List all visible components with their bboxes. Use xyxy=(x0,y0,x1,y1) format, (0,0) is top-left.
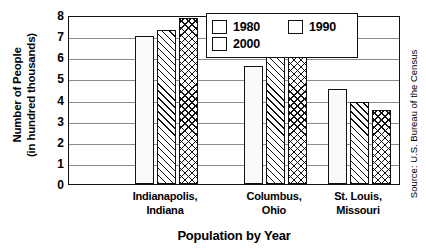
y-axis-tick-labels: 876543210 xyxy=(44,16,64,185)
bar xyxy=(328,89,347,184)
y-axis-tick-7: 7 xyxy=(44,31,64,43)
x-axis-title: Population by Year xyxy=(68,228,400,243)
bar xyxy=(157,30,176,184)
y-axis-tick-6: 6 xyxy=(44,52,64,64)
legend-label-1990: 1990 xyxy=(309,20,336,34)
y-axis-title-line-2: (in hundred thousands) xyxy=(25,33,37,157)
bar xyxy=(350,102,369,184)
legend-label-1980: 1980 xyxy=(233,20,260,34)
bar-group xyxy=(135,17,198,184)
clipped-chart-title xyxy=(0,0,426,5)
legend-swatch-2000-icon xyxy=(212,37,227,51)
bar xyxy=(266,51,285,184)
bar xyxy=(244,66,263,184)
legend-swatch-1990-icon xyxy=(288,20,303,34)
y-axis-tick-2: 2 xyxy=(44,137,64,149)
bar xyxy=(135,36,154,184)
y-axis-title-line-1: Number of People xyxy=(11,47,23,142)
source-note: Source: U.S. Bureau of the Census xyxy=(400,16,426,231)
x-axis-category-labels: Indianapolis,IndianaColumbus,OhioSt. Lou… xyxy=(68,189,400,223)
bar xyxy=(179,18,198,184)
legend-swatch-1980-icon xyxy=(212,20,227,34)
x-axis-category-label: Indianapolis,Indiana xyxy=(105,189,225,217)
legend-row-2: 2000 xyxy=(212,35,352,52)
y-axis-tick-5: 5 xyxy=(44,73,64,85)
legend-item-1990: 1990 xyxy=(288,20,336,34)
category-label-line-1: Indianapolis, xyxy=(105,189,225,203)
y-axis-tick-8: 8 xyxy=(44,10,64,22)
y-axis-tick-1: 1 xyxy=(44,158,64,170)
legend-label-2000: 2000 xyxy=(233,37,260,51)
legend-item-1980: 1980 xyxy=(212,20,288,34)
category-label-line-2: Indiana xyxy=(105,203,225,217)
source-note-text: Source: U.S. Bureau of the Census xyxy=(408,49,419,197)
y-axis-tick-4: 4 xyxy=(44,95,64,107)
bar xyxy=(372,110,391,184)
legend-row-1: 1980 1990 xyxy=(212,18,352,35)
legend: 1980 1990 2000 xyxy=(206,13,358,58)
chart-screenshot: Number of People (in hundred thousands) … xyxy=(0,0,426,252)
y-axis-tick-0: 0 xyxy=(44,179,64,191)
y-axis-title: Number of People (in hundred thousands) xyxy=(0,0,46,190)
y-axis-tick-3: 3 xyxy=(44,116,64,128)
legend-item-2000: 2000 xyxy=(212,37,288,51)
